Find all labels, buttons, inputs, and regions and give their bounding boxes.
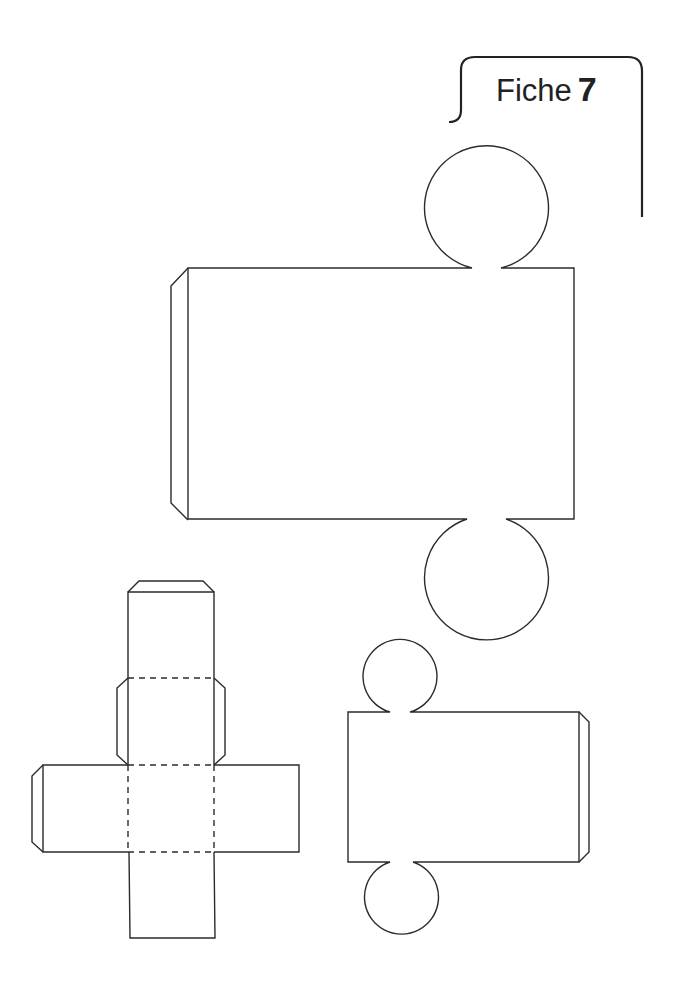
- cube-left-side-tab: [117, 678, 128, 765]
- small-cylinder-body: [348, 639, 579, 934]
- cube-net: [32, 581, 299, 938]
- worksheet-page: Fiche7: [0, 0, 676, 984]
- fiche-label-text: Fiche: [496, 73, 572, 108]
- cube-right-side-tab: [214, 678, 225, 765]
- cube-top-square: [128, 592, 214, 678]
- small-cylinder-glue-tab: [579, 712, 589, 862]
- large-cylinder-glue-tab: [171, 268, 188, 520]
- large-cylinder-body: [188, 146, 574, 640]
- cube-bottom-square: [129, 852, 215, 938]
- cube-second-square-sides: [128, 678, 214, 765]
- cube-top-glue-tab: [128, 581, 214, 592]
- cube-left-arm: [43, 765, 128, 852]
- cube-left-arm-glue-tab: [32, 765, 43, 852]
- large-cylinder-net: [171, 146, 574, 640]
- fiche-title: Fiche7: [496, 72, 597, 106]
- nets-drawing: [0, 0, 676, 984]
- cube-right-arm: [214, 765, 299, 852]
- fiche-number: 7: [578, 70, 597, 108]
- small-cylinder-net: [348, 639, 589, 934]
